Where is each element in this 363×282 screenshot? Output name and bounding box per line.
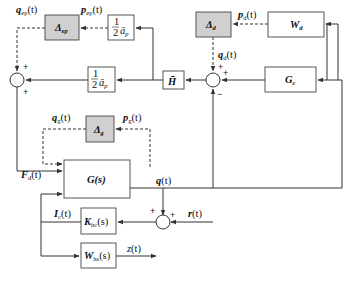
signal-q-ep: qep(t) (16, 4, 38, 16)
svg-text:2: 2 (92, 79, 97, 90)
sum-junction-right (206, 73, 220, 87)
signal-q-d: qd(t) (218, 49, 237, 61)
label-g-s: G(s) (87, 174, 106, 186)
svg-text:+: + (170, 210, 175, 220)
signal-i-c: Ic(t) (53, 208, 71, 220)
signal-p-d: pd(t) (237, 9, 257, 21)
signal-z: z(t) (126, 243, 142, 255)
sum-junction-bottom (156, 215, 170, 229)
sum-junction-left (10, 73, 24, 87)
svg-text:+: + (223, 68, 228, 78)
label-h-bar: H̄ (167, 76, 177, 87)
svg-text:+: + (23, 62, 28, 72)
signal-f-d: Fd(t) (20, 169, 42, 181)
svg-text:+: + (23, 87, 28, 97)
signal-r: r(t) (188, 208, 203, 220)
signal-q-g: qg(t) (52, 112, 71, 124)
svg-text:−: − (217, 89, 222, 99)
svg-text:1: 1 (114, 16, 119, 27)
svg-text:+: + (150, 206, 155, 216)
svg-text:1: 1 (93, 68, 98, 79)
signal-p-ep: pep(t) (80, 4, 103, 16)
block-diagram: + + + + − + + Δep 1 2 āp 1 2 āp H̄ Δd Wd… (0, 0, 363, 282)
svg-text:2: 2 (113, 27, 118, 38)
signal-p-g: pg(t) (122, 112, 142, 124)
signal-q: q(t) (156, 175, 172, 187)
